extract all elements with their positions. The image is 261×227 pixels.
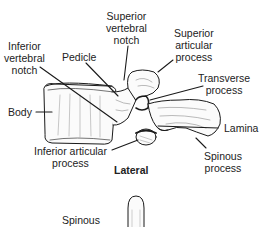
transverse-process-shape bbox=[136, 96, 149, 110]
label-transverse-process: Transverse process bbox=[198, 72, 250, 96]
label-text: Spinous bbox=[62, 214, 100, 226]
leader-spinous-process bbox=[196, 138, 206, 148]
view-caption: Lateral bbox=[114, 164, 148, 176]
label-line: Superior bbox=[106, 10, 147, 22]
label-text: Lamina bbox=[224, 122, 258, 134]
label-line: Spinous bbox=[204, 150, 242, 162]
leader-inferior-articular-process bbox=[112, 140, 138, 150]
label-line: Transverse bbox=[198, 72, 250, 84]
label-body: Body bbox=[8, 106, 32, 118]
vertebra-diagram: Superior vertebral notch Superior articu… bbox=[0, 0, 261, 227]
lamina-spinous-shape bbox=[148, 100, 220, 137]
label-superior-articular-process: Superior articular process bbox=[174, 27, 214, 63]
leader-superior-vertebral-notch bbox=[124, 46, 128, 80]
label-line: vertebral bbox=[106, 22, 147, 34]
label-inferior-articular-process: Inferior articular process bbox=[34, 145, 107, 169]
label-text: Body bbox=[8, 106, 32, 118]
label-pedicle: Pedicle bbox=[62, 51, 96, 63]
leader-superior-articular-process bbox=[158, 60, 173, 72]
label-text: Pedicle bbox=[62, 51, 96, 63]
label-line: process bbox=[34, 157, 107, 169]
label-line: Superior bbox=[174, 27, 214, 39]
inferior-articular-process-shape bbox=[136, 129, 156, 145]
label-inferior-vertebral-notch: Inferior vertebral notch bbox=[4, 40, 45, 76]
label-line: process bbox=[198, 84, 250, 96]
label-line: Inferior articular bbox=[34, 145, 107, 157]
label-line: notch bbox=[106, 34, 147, 46]
label-spinous-process: Spinous process bbox=[204, 150, 242, 174]
label-spinous-lower: Spinous bbox=[62, 214, 100, 226]
label-lamina: Lamina bbox=[224, 122, 258, 134]
label-line: process bbox=[204, 162, 242, 174]
label-line: process bbox=[174, 51, 214, 63]
label-line: Inferior bbox=[4, 40, 45, 52]
label-line: vertebral bbox=[4, 52, 45, 64]
label-superior-vertebral-notch: Superior vertebral notch bbox=[106, 10, 147, 46]
caption-text: Lateral bbox=[114, 164, 148, 176]
label-line: notch bbox=[4, 64, 45, 76]
label-line: articular bbox=[174, 39, 214, 51]
lower-spinous-sketch bbox=[128, 196, 144, 227]
